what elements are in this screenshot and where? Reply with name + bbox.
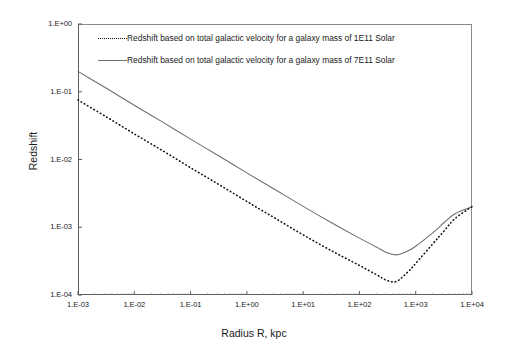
legend-label-7e11: Redshift based on total galactic velocit… [127,55,395,65]
x-tick-label: 1.E-03 [51,300,105,309]
x-tick-label: 1.E+01 [276,300,330,309]
x-tick-label: 1.E+04 [445,300,499,309]
x-tick-label: 1.E-01 [164,300,218,309]
legend-label-1e11: Redshift based on total galactic velocit… [127,33,395,43]
solid-line-sample-icon [98,55,127,65]
x-tick-label: 1.E-02 [107,300,161,309]
legend-item-7e11: Redshift based on total galactic velocit… [98,49,458,71]
y-tick-label: 1.E-04 [28,290,72,299]
x-tick-label: 1.E+02 [332,300,386,309]
x-tick-label: 1.E+00 [220,300,274,309]
chart-legend: Redshift based on total galactic velocit… [98,27,458,71]
dotted-line-sample-icon [98,33,127,43]
redshift-radius-chart: 1.E-031.E-021.E-011.E+001.E+011.E+021.E+… [0,0,508,349]
x-tick-label: 1.E+03 [389,300,443,309]
y-tick-label: 1.E-03 [28,222,72,231]
y-tick-label: 1.E+00 [28,19,72,28]
y-axis-title: Redshift [27,91,39,211]
x-axis-title: Radius R, kpc [0,327,508,339]
legend-item-1e11: Redshift based on total galactic velocit… [98,27,458,49]
